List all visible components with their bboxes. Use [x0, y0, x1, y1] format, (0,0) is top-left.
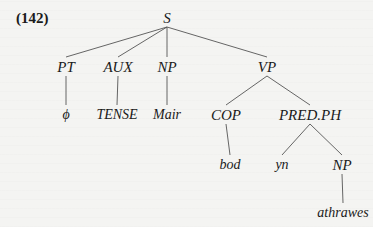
tree-edge — [118, 27, 167, 57]
leaf-tense: TENSE — [96, 108, 137, 122]
node-s: S — [163, 11, 171, 26]
tree-edge — [267, 76, 310, 105]
leaf-yn: yn — [275, 158, 288, 172]
tree-edge — [342, 174, 343, 203]
node-np-object: NP — [332, 158, 351, 173]
node-vp: VP — [258, 60, 276, 75]
tree-edge — [226, 124, 230, 155]
tree-edge — [226, 76, 267, 105]
tree-edge — [282, 124, 310, 155]
leaf-mair: Mair — [153, 108, 181, 122]
leaf-athrawes: athrawes — [317, 206, 368, 220]
node-pt: PT — [57, 60, 75, 75]
node-np-subject: NP — [157, 60, 176, 75]
leaf-bod: bod — [220, 158, 241, 172]
node-cop: COP — [211, 108, 241, 123]
tree-edge — [167, 27, 267, 57]
tree-edge — [117, 76, 118, 105]
node-aux: AUX — [103, 60, 132, 75]
tree-edge — [66, 27, 167, 57]
leaf-phi: ϕ — [62, 108, 69, 122]
node-pred-ph: PRED.PH — [279, 108, 341, 123]
tree-edge — [310, 124, 342, 155]
